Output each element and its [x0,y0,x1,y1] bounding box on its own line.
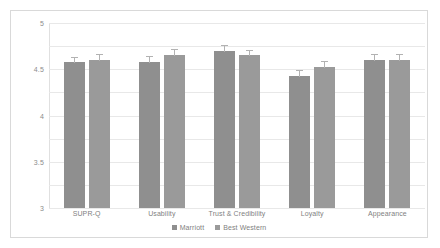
bar[interactable] [89,60,110,208]
x-axis-category-labels: SUPR-QUsabilityTrust & CredibilityLoyalt… [49,210,425,217]
x-axis-tick-label: Loyalty [275,210,350,217]
bar[interactable] [389,60,410,208]
error-bar [324,61,325,68]
gridline: 1 [49,208,425,209]
error-bar-cap [371,54,378,55]
x-axis-tick-label: Usability [124,210,199,217]
bar[interactable] [289,76,310,208]
legend-swatch-icon [172,225,177,230]
bar-group [199,23,274,208]
bar-group [350,23,425,208]
bar[interactable] [164,55,185,208]
bar-slot [364,23,385,208]
legend-item[interactable]: Best Western [215,224,266,231]
y-axis-tick-label: 3.5 [34,158,44,165]
error-bar [149,56,150,63]
bars [199,23,274,208]
bar-slot [64,23,85,208]
bar-slot [164,23,185,208]
error-bar-cap [71,57,78,58]
error-bar [174,49,175,56]
bar[interactable] [364,60,385,208]
bar[interactable] [214,51,235,208]
bar[interactable] [64,62,85,208]
bar-group [275,23,350,208]
legend-label: Best Western [223,224,266,231]
error-bar-cap [396,54,403,55]
bar-slot [214,23,235,208]
error-bar-cap [96,54,103,55]
bars [350,23,425,208]
plot-area: 54.543.532.521.51 [49,23,425,208]
bar-slot [314,23,335,208]
bars [275,23,350,208]
bars [49,23,124,208]
y-axis-tick-label: 4 [40,112,44,119]
bar-slot [289,23,310,208]
chart-frame: 54.543.532.521.51 SUPR-QUsabilityTrust &… [10,10,428,238]
bar-slot [89,23,110,208]
error-bar [299,70,300,77]
bar-group [49,23,124,208]
bar-group [124,23,199,208]
error-bar-cap [146,56,153,57]
legend-item[interactable]: Marriott [172,224,205,231]
bar-groups [49,23,425,208]
error-bar-cap [246,50,253,51]
error-bar [399,54,400,61]
bar[interactable] [139,62,160,208]
y-axis-tick-label: 5 [40,20,44,27]
error-bar [99,54,100,61]
bar[interactable] [239,55,260,208]
bar-slot [239,23,260,208]
y-axis-tick-label: 4.5 [34,66,44,73]
error-bar-cap [321,61,328,62]
legend-label: Marriott [180,224,205,231]
x-axis-tick-label: SUPR-Q [49,210,124,217]
bar-slot [139,23,160,208]
x-axis-tick-label: Trust & Credibility [199,210,274,217]
bar-slot [389,23,410,208]
legend-swatch-icon [215,225,220,230]
error-bar-cap [221,45,228,46]
y-axis-tick-label: 3 [40,205,44,212]
bar[interactable] [314,67,335,208]
error-bar-cap [171,49,178,50]
bars [124,23,199,208]
chart-legend: MarriottBest Western [11,224,427,231]
x-axis-tick-label: Appearance [350,210,425,217]
error-bar-cap [296,70,303,71]
